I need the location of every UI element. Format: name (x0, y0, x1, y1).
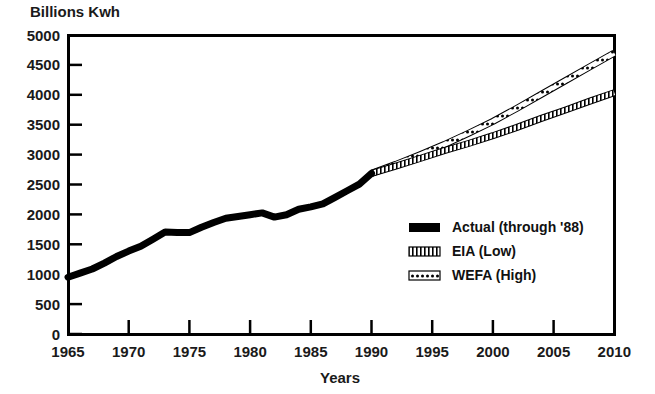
y-tick-label: 5000 (27, 27, 60, 44)
x-tick-label: 1990 (355, 343, 388, 360)
x-tick-label: 2005 (537, 343, 570, 360)
legend-label-eia-low: EIA (Low) (452, 243, 516, 259)
y-tick-label: 0 (52, 326, 60, 343)
legend-swatch-hatched (409, 247, 440, 256)
legend-label-wefa-high: WEFA (High) (452, 267, 536, 283)
y-tick-label: 4000 (27, 86, 60, 103)
y-tick-label: 3500 (27, 116, 60, 133)
energy-forecast-line-chart: Billions Kwh 0 500 1000 1500 2000 2500 3… (0, 0, 655, 394)
x-axis-title: Years (320, 369, 360, 386)
y-tick-label: 1000 (27, 266, 60, 283)
legend-label-actual: Actual (through '88) (452, 219, 584, 235)
x-tick-label: 1975 (173, 343, 206, 360)
x-tick-label: 2010 (598, 343, 631, 360)
x-tick-1965: 1965 (51, 343, 84, 360)
x-tick-label: 1995 (416, 343, 449, 360)
legend-swatch-solid (409, 223, 440, 232)
y-tick-label: 1500 (27, 236, 60, 253)
chart-container: Billions Kwh 0 500 1000 1500 2000 2500 3… (0, 0, 655, 394)
y-tick-label: 2000 (27, 206, 60, 223)
x-tick-label: 1970 (112, 343, 145, 360)
x-tick-label: 2000 (476, 343, 509, 360)
y-axis-title: Billions Kwh (30, 3, 120, 20)
y-tick-label: 500 (35, 296, 60, 313)
x-tick-label: 1980 (233, 343, 266, 360)
y-tick-5000: 5000 (27, 27, 60, 44)
y-tick-label: 4500 (27, 56, 60, 73)
legend-swatch-dotted (409, 271, 440, 280)
y-tick-label: 3000 (27, 146, 60, 163)
x-tick-label: 1965 (51, 343, 84, 360)
y-tick-label: 2500 (27, 176, 60, 193)
x-tick-label: 1985 (294, 343, 327, 360)
x-tick-2010: 2010 (598, 343, 631, 360)
